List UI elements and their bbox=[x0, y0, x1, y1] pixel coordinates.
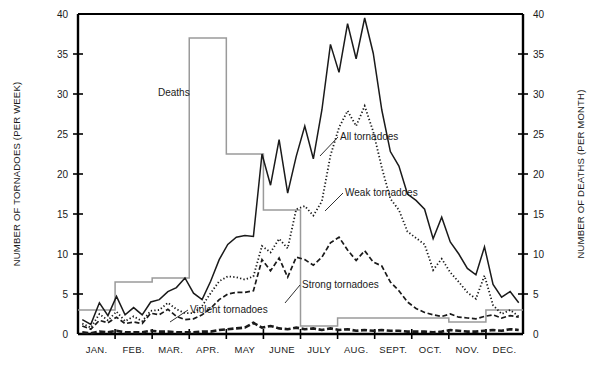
annotation-label: Deaths bbox=[158, 87, 190, 98]
y-axis-left-title: NUMBER OF TORNADOES (PER WEEK) bbox=[11, 82, 22, 267]
x-axis-month-label: MAR. bbox=[158, 344, 183, 355]
y-axis-right-title: NUMBER OF DEATHS (PER MONTH) bbox=[575, 89, 586, 258]
y-tick-label-left: 30 bbox=[57, 89, 69, 100]
chart-canvas: 0510152025303540 0510152025303540 JAN.FE… bbox=[0, 0, 601, 369]
x-axis-month-label: OCT. bbox=[419, 344, 442, 355]
x-axis-month-label: SEPT. bbox=[379, 344, 407, 355]
y-tick-label-left: 40 bbox=[57, 9, 69, 20]
annotation-label: Strong tornadoes bbox=[302, 279, 379, 290]
y-tick-label-right: 5 bbox=[533, 289, 539, 300]
y-tick-label-right: 35 bbox=[533, 49, 545, 60]
x-axis-month-label: JAN. bbox=[86, 344, 108, 355]
x-axis-month-label: APR. bbox=[196, 344, 219, 355]
y-tick-label-left: 5 bbox=[62, 289, 68, 300]
y-tick-label-right: 30 bbox=[533, 89, 545, 100]
x-axis-month-label: JULY bbox=[307, 344, 331, 355]
x-axis-month-label: DEC. bbox=[493, 344, 517, 355]
y-tick-label-right: 15 bbox=[533, 209, 545, 220]
x-axis-month-label: FEB. bbox=[122, 344, 144, 355]
x-axis-month-label: JUNE bbox=[269, 344, 295, 355]
x-axis-month-label: MAY bbox=[234, 344, 255, 355]
y-tick-label-right: 25 bbox=[533, 129, 545, 140]
x-axis-month-label: AUG. bbox=[344, 344, 368, 355]
y-tick-label-right: 10 bbox=[533, 249, 545, 260]
y-tick-label-right: 0 bbox=[533, 329, 539, 340]
annotation-label: All tornadoes bbox=[340, 131, 398, 142]
y-tick-label-left: 20 bbox=[57, 169, 69, 180]
tornado-chart: 0510152025303540 0510152025303540 JAN.FE… bbox=[0, 0, 601, 369]
annotation-label: Violent tornadoes bbox=[190, 304, 268, 315]
y-tick-label-left: 10 bbox=[57, 249, 69, 260]
y-tick-label-right: 20 bbox=[533, 169, 545, 180]
annotation-label: Weak tornadoes bbox=[345, 187, 418, 198]
y-tick-label-left: 25 bbox=[57, 129, 69, 140]
y-tick-label-left: 0 bbox=[62, 329, 68, 340]
y-tick-label-right: 40 bbox=[533, 9, 545, 20]
x-axis-month-label: NOV. bbox=[456, 344, 480, 355]
y-tick-label-left: 15 bbox=[57, 209, 69, 220]
y-tick-label-left: 35 bbox=[57, 49, 69, 60]
